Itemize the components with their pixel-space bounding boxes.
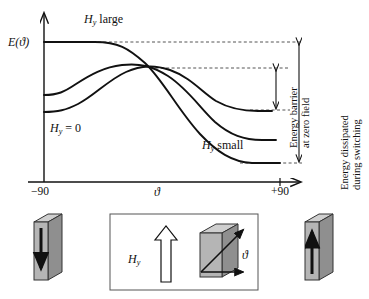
magnet-block-left xyxy=(34,214,62,280)
figure-canvas xyxy=(0,0,369,299)
x-axis-label: ϑ xyxy=(154,186,160,198)
annotation-energy-barrier: Energy barrier at zero field xyxy=(289,87,311,148)
y-axis-label: E(ϑ) xyxy=(8,36,29,48)
energy-landscape-figure: E(ϑ) Hy large Hy = 0 Hy small −90 ϑ +90 … xyxy=(0,0,369,299)
right-block-side-face xyxy=(319,214,333,280)
energy-curves xyxy=(44,42,280,163)
curve-hy-zero xyxy=(44,66,272,112)
annotation-energy-dissipated: Energy dissipated during switching xyxy=(340,115,362,190)
x-tick-label-minus90: −90 xyxy=(31,186,49,198)
annotation-energy-dissipated-line2: during switching xyxy=(352,115,363,190)
curve-label-hy-zero: Hy = 0 xyxy=(50,122,81,136)
curve-label-hy-large: Hy large xyxy=(84,13,123,27)
left-block-side-face xyxy=(48,214,62,280)
x-tick-label-plus90: +90 xyxy=(271,186,289,198)
inset-slab-side-face xyxy=(222,224,238,277)
guide-lines xyxy=(44,42,302,163)
annotation-energy-barrier-line1: Energy barrier xyxy=(289,87,300,148)
curve-label-hy-small: Hy small xyxy=(202,139,243,153)
inset-field-label: Hy xyxy=(128,253,140,267)
inset-angle-label: ϑ xyxy=(242,249,248,261)
annotation-energy-dissipated-line1: Energy dissipated xyxy=(340,115,351,190)
annotation-energy-barrier-line2: at zero field xyxy=(301,87,312,148)
magnet-block-right xyxy=(305,214,333,280)
plot-axes xyxy=(28,14,300,186)
